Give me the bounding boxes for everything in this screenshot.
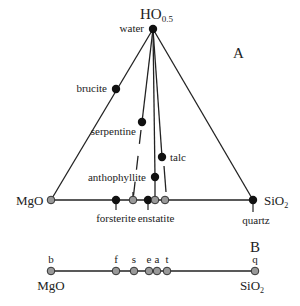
e-label: e bbox=[147, 253, 152, 265]
brucite-point bbox=[112, 85, 120, 93]
b-label: b bbox=[48, 253, 54, 265]
b-sio2-label: SiO2 bbox=[240, 278, 264, 295]
anthophyllite-projected-point bbox=[151, 196, 159, 204]
talc-projection bbox=[164, 166, 166, 192]
talc-point bbox=[158, 153, 166, 161]
s-point bbox=[130, 267, 138, 275]
t-point bbox=[163, 267, 171, 275]
forsterite-point bbox=[112, 196, 120, 204]
b-mgo-label: MgO bbox=[37, 278, 64, 293]
panel-a-label: A bbox=[233, 45, 244, 61]
anthophyllite-label: anthophyllite bbox=[88, 171, 146, 183]
apex-formula: HO0.5 bbox=[140, 6, 173, 24]
serpentine-point bbox=[138, 118, 146, 126]
water-label: water bbox=[120, 22, 145, 34]
talc-projected-point bbox=[161, 196, 169, 204]
serpentine-label: serpentine bbox=[91, 125, 136, 137]
mgo-point bbox=[47, 196, 55, 204]
q-point bbox=[251, 267, 259, 275]
mgo-label: MgO bbox=[16, 193, 43, 208]
a-label: a bbox=[155, 253, 160, 265]
f-label: f bbox=[114, 253, 118, 265]
talc-label: talc bbox=[170, 151, 186, 163]
ternary-diagram: HO0.5 water A brucite serpentine talc an… bbox=[0, 0, 300, 306]
enstatite-label: enstatite bbox=[138, 212, 175, 224]
water-point bbox=[149, 25, 157, 33]
s-label: s bbox=[132, 253, 136, 265]
b-point bbox=[47, 267, 55, 275]
serpentine-projection bbox=[133, 130, 141, 200]
anthophyllite-point bbox=[151, 173, 159, 181]
panel-a: HO0.5 water A brucite serpentine talc an… bbox=[16, 6, 288, 226]
e-point bbox=[145, 267, 153, 275]
t-label: t bbox=[165, 253, 168, 265]
a-point bbox=[153, 267, 161, 275]
f-point bbox=[112, 267, 120, 275]
water-serpentine-line bbox=[142, 29, 153, 122]
serpentine-projected-point bbox=[129, 196, 137, 204]
quartz-label: quartz bbox=[242, 214, 270, 226]
sio2-label: SiO2 bbox=[264, 193, 288, 210]
q-label: q bbox=[252, 253, 258, 265]
quartz-point bbox=[249, 196, 257, 204]
panel-b: B b f s e a t q MgO SiO2 bbox=[37, 239, 264, 295]
brucite-label: brucite bbox=[76, 82, 107, 94]
forsterite-label: forsterite bbox=[96, 212, 136, 224]
